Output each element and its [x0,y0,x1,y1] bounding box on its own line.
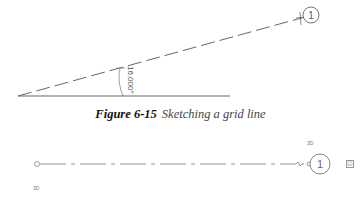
figure-number: Figure 6-15 [95,107,156,121]
figure-top-diagram: 16.000° 1 1 [0,0,361,200]
grid-bubble-label: 1 [308,10,314,21]
hide-bubble-checkbox[interactable]: ☑ [346,160,354,168]
angle-label: 16.000° [126,66,135,94]
grid-start-handle[interactable] [35,162,40,167]
label-3d-bottom[interactable]: 3D [33,185,39,191]
figure-caption-text: Sketching a grid line [162,107,266,121]
elbow-icon[interactable] [296,162,304,166]
label-3d-top[interactable]: 3D [307,140,313,146]
angle-arc [119,68,123,96]
figure-caption: Figure 6-15Sketching a grid line [0,107,361,122]
grid-line-dashed [18,17,305,96]
grid-bubble-bottom-label: 1 [317,158,323,170]
